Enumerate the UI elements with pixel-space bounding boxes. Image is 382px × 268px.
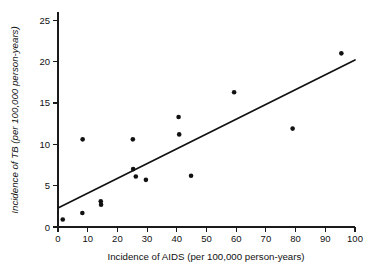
x-tick-label: 0 xyxy=(55,233,60,244)
x-tick-label: 20 xyxy=(112,233,123,244)
data-point xyxy=(144,178,149,183)
x-tick-label: 10 xyxy=(82,233,93,244)
data-point xyxy=(232,90,237,95)
data-point xyxy=(60,217,65,222)
x-axis-title: Incidence of AIDS (per 100,000 person-ye… xyxy=(107,251,304,262)
x-tick-label: 30 xyxy=(142,233,153,244)
y-tick-label: 15 xyxy=(39,97,50,108)
data-point xyxy=(189,173,194,178)
y-axis-ticks: 0510152025 xyxy=(39,15,58,233)
x-tick-label: 100 xyxy=(347,233,363,244)
y-tick-label: 5 xyxy=(45,180,50,191)
axes xyxy=(58,12,355,227)
chart-svg: 0510152025 0102030405060708090100 Incide… xyxy=(0,0,382,268)
data-point xyxy=(290,126,295,131)
x-tick-label: 90 xyxy=(320,233,331,244)
y-tick-label: 25 xyxy=(39,15,50,26)
y-tick-label: 10 xyxy=(39,139,50,150)
x-tick-label: 70 xyxy=(261,233,272,244)
data-point xyxy=(134,174,139,179)
data-point xyxy=(339,51,344,56)
x-tick-label: 40 xyxy=(172,233,183,244)
y-tick-label: 20 xyxy=(39,56,50,67)
y-axis-title: Incidence of TB (per 100,000 person-year… xyxy=(9,26,20,213)
x-tick-label: 60 xyxy=(231,233,242,244)
y-tick-label: 0 xyxy=(45,222,50,233)
x-axis-ticks: 0102030405060708090100 xyxy=(55,227,363,244)
data-point xyxy=(176,115,181,120)
data-point xyxy=(80,137,85,142)
scatter-chart: 0510152025 0102030405060708090100 Incide… xyxy=(0,0,382,268)
data-point xyxy=(99,202,104,207)
regression-line xyxy=(58,60,355,208)
x-tick-label: 50 xyxy=(201,233,212,244)
data-point xyxy=(131,137,136,142)
data-point xyxy=(177,132,182,137)
x-tick-label: 80 xyxy=(290,233,301,244)
data-point xyxy=(80,211,85,216)
